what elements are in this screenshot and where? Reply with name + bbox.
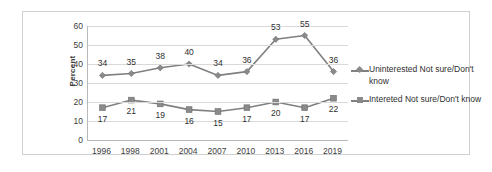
data-point-label: 15	[213, 118, 222, 128]
data-point-label: 36	[329, 55, 338, 65]
data-point-marker-diamond[interactable]	[99, 72, 105, 78]
legend-item-interested[interactable]: Intereted Not sure/Don't know	[351, 94, 491, 106]
legend-item-uninterested[interactable]: Uninterested Not sure/Don't know	[351, 64, 491, 87]
x-tick-label: 2019	[323, 146, 342, 156]
data-point-label: 22	[329, 104, 338, 114]
chart-legend: Uninterested Not sure/Don't know Interet…	[351, 64, 491, 113]
data-point-label: 34	[98, 58, 107, 68]
x-tick-label: 2016	[294, 146, 313, 156]
data-point-label: 17	[98, 114, 107, 124]
x-tick-label: 2001	[150, 146, 169, 156]
data-point-label: 38	[155, 51, 164, 61]
data-point-label: 20	[271, 108, 280, 118]
x-tick-label: 1996	[92, 146, 111, 156]
data-point-label: 55	[300, 19, 309, 29]
data-point-marker-square[interactable]	[186, 107, 192, 113]
gridline	[88, 45, 348, 46]
legend-label-uninterested: Uninterested Not sure/Don't know	[369, 64, 485, 87]
data-point-label: 36	[242, 55, 251, 65]
data-point-label: 40	[184, 47, 193, 57]
gridline	[88, 102, 348, 103]
legend-label-interested: Intereted Not sure/Don't know	[369, 94, 481, 106]
data-point-label: 19	[155, 110, 164, 120]
chart-frame: Percent 0102030405060 343538403436535536…	[22, 11, 470, 155]
legend-marker-diamond-icon	[351, 65, 369, 76]
y-tick-label: 40	[61, 59, 83, 69]
x-axis-tick-labels: 199619982001200420072010201320162019	[87, 146, 347, 160]
plot-area: 343538403436535536172119161517201722	[87, 26, 348, 141]
data-point-marker-diamond[interactable]	[215, 72, 221, 78]
x-tick-label: 2013	[265, 146, 284, 156]
y-tick-label: 60	[61, 21, 83, 31]
data-point-marker-square[interactable]	[244, 105, 250, 111]
data-point-marker-square[interactable]	[331, 95, 337, 101]
y-axis-tick-labels: 0102030405060	[61, 26, 83, 140]
y-tick-label: 20	[61, 97, 83, 107]
data-point-marker-square[interactable]	[100, 105, 106, 111]
data-point-marker-square[interactable]	[215, 109, 221, 115]
legend-marker-square-icon	[351, 95, 369, 106]
data-point-label: 53	[271, 22, 280, 32]
data-point-label: 35	[127, 57, 136, 67]
y-tick-label: 50	[61, 40, 83, 50]
x-tick-label: 2007	[208, 146, 227, 156]
data-point-label: 34	[213, 58, 222, 68]
data-point-label: 16	[184, 116, 193, 126]
y-tick-label: 0	[61, 135, 83, 145]
y-tick-label: 30	[61, 78, 83, 88]
data-point-marker-square[interactable]	[302, 105, 308, 111]
data-point-label: 21	[127, 106, 136, 116]
x-tick-label: 1998	[121, 146, 140, 156]
data-point-marker-diamond[interactable]	[157, 65, 163, 71]
data-point-label: 17	[300, 114, 309, 124]
y-tick-label: 10	[61, 116, 83, 126]
x-tick-label: 2010	[236, 146, 255, 156]
data-point-marker-diamond[interactable]	[128, 70, 134, 76]
gridline	[88, 83, 348, 84]
x-tick-label: 2004	[179, 146, 198, 156]
data-point-label: 17	[242, 114, 251, 124]
series-line	[102, 36, 333, 76]
